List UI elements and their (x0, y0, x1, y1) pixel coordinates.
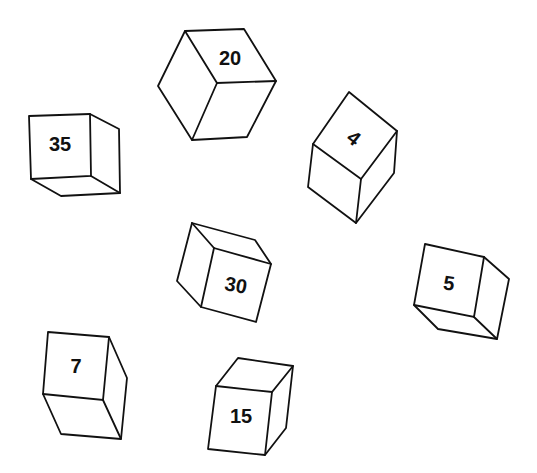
cube-20: 20 (158, 29, 276, 140)
cube-label: 7 (70, 355, 81, 377)
cube-label: 30 (223, 272, 249, 298)
cube-30: 30 (177, 223, 271, 322)
cube-label: 35 (49, 133, 71, 155)
cube-5: 5 (414, 244, 509, 339)
cube-label: 20 (219, 47, 241, 69)
cube-15: 15 (208, 358, 293, 455)
cube-4: 4 (308, 92, 397, 223)
cube-35: 35 (29, 114, 120, 196)
cube-7: 7 (43, 332, 127, 439)
cube-label: 15 (230, 405, 252, 427)
cubes-diagram: 20 35 4 30 5 7 15 (0, 0, 537, 473)
